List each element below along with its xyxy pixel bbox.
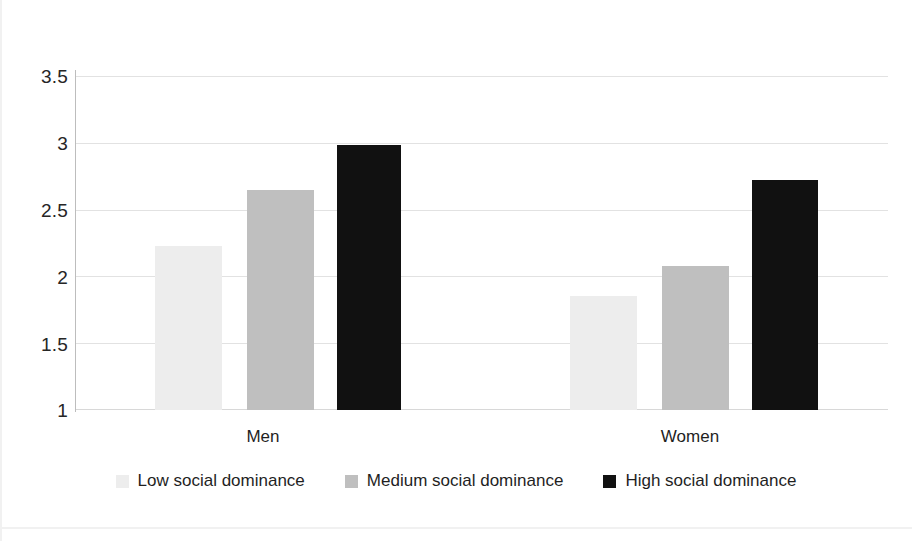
legend-label-low: Low social dominance — [138, 472, 305, 490]
y-tick-label: 1 — [8, 401, 68, 420]
y-tick-label: 3 — [8, 134, 68, 153]
y-tick-label: 1.5 — [8, 335, 68, 354]
legend-swatch-icon-low — [116, 475, 129, 488]
x-category-label-women: Women — [630, 428, 750, 446]
gridline-3.5 — [76, 76, 888, 77]
plot-area — [76, 76, 888, 410]
bar-women-medium — [662, 266, 729, 410]
legend-label-medium: Medium social dominance — [367, 472, 564, 490]
bar-chart: 3.5 3 2.5 2 1.5 1 Men Women Low social d… — [0, 0, 912, 541]
legend-item-high: High social dominance — [603, 472, 796, 490]
bar-women-high — [752, 180, 818, 410]
y-tick-label: 3.5 — [8, 67, 68, 86]
legend-item-medium: Medium social dominance — [345, 472, 564, 490]
y-tick-label: 2.5 — [8, 201, 68, 220]
legend-swatch-icon-high — [603, 475, 616, 488]
bar-men-medium — [247, 190, 314, 410]
legend-label-high: High social dominance — [625, 472, 796, 490]
x-category-label-men: Men — [203, 428, 323, 446]
chart-legend: Low social dominance Medium social domin… — [0, 472, 912, 490]
y-axis-ticks: 3.5 3 2.5 2 1.5 1 — [0, 0, 68, 541]
y-tick-label: 2 — [8, 268, 68, 287]
gridline-3 — [76, 143, 888, 144]
scan-edge-artifact — [0, 527, 912, 529]
bar-men-high — [337, 145, 401, 410]
bar-men-low — [155, 246, 222, 410]
bar-women-low — [570, 296, 637, 410]
legend-item-low: Low social dominance — [116, 472, 305, 490]
legend-swatch-icon-medium — [345, 475, 358, 488]
